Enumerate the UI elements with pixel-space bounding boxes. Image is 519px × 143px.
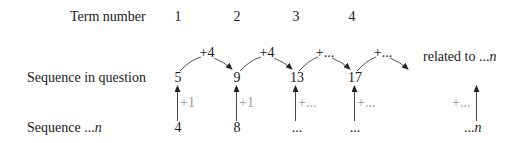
sequence-value-3: 13 bbox=[290, 70, 304, 86]
term-number-label: Term number bbox=[70, 9, 146, 25]
related-to-var: n bbox=[489, 49, 496, 64]
sequence-n-last-var: n bbox=[475, 120, 482, 135]
sequence-value-1: 5 bbox=[175, 70, 182, 86]
sequence-value-2: 9 bbox=[234, 70, 241, 86]
difference-label-3: +... bbox=[316, 45, 334, 61]
related-to-label: related to ...n bbox=[423, 49, 496, 65]
sequence-n-value-2: 8 bbox=[234, 120, 241, 136]
arc-9-to-13-tail bbox=[274, 58, 292, 69]
vertical-label-1: +1 bbox=[180, 95, 195, 111]
term-number-2: 2 bbox=[234, 9, 241, 25]
vertical-label-5: +... bbox=[452, 95, 470, 111]
vertical-label-4: +... bbox=[357, 95, 375, 111]
vertical-label-2: +1 bbox=[239, 95, 254, 111]
term-number-1: 1 bbox=[175, 9, 182, 25]
arc-5-to-9-tail bbox=[214, 58, 232, 69]
related-to-prefix: related to ... bbox=[423, 49, 489, 64]
arc-5-to-9 bbox=[180, 57, 201, 71]
vertical-arrows bbox=[178, 86, 477, 121]
difference-label-4: +... bbox=[374, 45, 392, 61]
sequence-n-last-prefix: ... bbox=[464, 120, 475, 135]
sequence-n-label-prefix: Sequence ... bbox=[27, 120, 95, 135]
sequence-n-value-1: 4 bbox=[175, 120, 182, 136]
term-number-3: 3 bbox=[293, 9, 300, 25]
sequence-n-value-last: ...n bbox=[464, 120, 482, 136]
sequence-value-4: 17 bbox=[348, 70, 362, 86]
sequence-n-value-4: ... bbox=[350, 120, 361, 136]
arc-9-to-13 bbox=[240, 57, 261, 71]
arc-13-to-17-tail bbox=[332, 58, 350, 69]
sequence-n-label: Sequence ...n bbox=[27, 120, 102, 136]
difference-label-1: +4 bbox=[200, 45, 215, 61]
arc-17-to-next-tail bbox=[390, 58, 408, 69]
difference-label-2: +4 bbox=[260, 45, 275, 61]
sequence-n-value-3: ... bbox=[292, 120, 303, 136]
vertical-label-3: +... bbox=[298, 95, 316, 111]
sequence-n-label-var: n bbox=[95, 120, 102, 135]
term-number-4: 4 bbox=[349, 9, 356, 25]
sequence-in-question-label: Sequence in question bbox=[27, 70, 146, 86]
